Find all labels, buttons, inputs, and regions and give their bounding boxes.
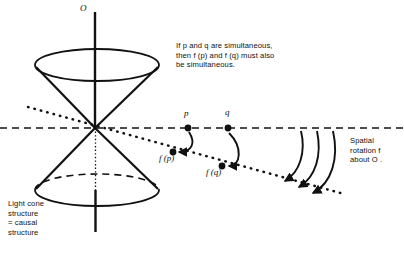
lower-cone-left-generator (36, 128, 95, 189)
point-label-p: p (184, 108, 189, 118)
upper-cone-left-generator (36, 67, 95, 128)
point-label-fq: f (q) (206, 167, 221, 177)
axis-label-O: O (80, 3, 87, 13)
diagram-canvas (0, 0, 404, 259)
lower-cone-rim-front (35, 190, 159, 206)
map-arrow-q-to-fq (229, 133, 239, 166)
rotation-note: Spatial rotation f about O . (350, 136, 382, 165)
rotation-arrow-1 (285, 131, 303, 181)
point-label-fp: f (p) (159, 153, 174, 163)
upper-cone-right-generator (95, 67, 158, 128)
light-cone-note: Light cone structure = causal structure (8, 199, 44, 237)
light-cone-diagram: O p q f (p) f (q) If p and q are simulta… (0, 0, 404, 259)
point-q (225, 125, 232, 132)
lower-cone-right-generator (95, 128, 158, 189)
point-label-q: q (225, 107, 230, 117)
simultaneity-note: If p and q are simultaneous, then f (p) … (176, 41, 274, 70)
point-p (185, 125, 192, 132)
lower-cone-rim-back (35, 174, 159, 190)
upper-cone-rim (35, 49, 159, 81)
